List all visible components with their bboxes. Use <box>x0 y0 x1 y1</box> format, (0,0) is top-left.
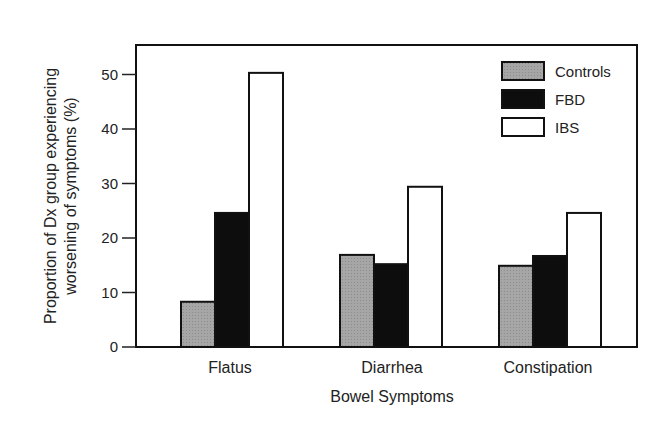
y-axis-title-line: worsening of symptoms (%) <box>62 97 79 295</box>
x-category-label: Constipation <box>504 359 593 376</box>
legend-label-ibs: IBS <box>555 119 579 136</box>
bar-controls-diarrhea <box>340 255 374 347</box>
bar-fbd-flatus <box>215 213 249 347</box>
legend-label-fbd: FBD <box>555 91 585 108</box>
bar-fbd-diarrhea <box>374 264 408 347</box>
y-tick-label: 50 <box>101 66 118 83</box>
x-category-label: Flatus <box>208 359 252 376</box>
x-axis-title: Bowel Symptoms <box>330 388 454 405</box>
bar-ibs-diarrhea <box>408 187 442 347</box>
bar-controls-constipation <box>499 266 533 347</box>
y-axis-title-line: Proportion of Dx group experiencing <box>42 68 59 324</box>
y-tick-label: 10 <box>101 284 118 301</box>
bars <box>181 73 601 347</box>
y-tick-label: 0 <box>110 338 118 355</box>
y-tick-label: 40 <box>101 120 118 137</box>
legend-swatch-ibs <box>502 118 544 136</box>
legend: ControlsFBDIBS <box>502 62 611 136</box>
y-tick-label: 30 <box>101 175 118 192</box>
bar-ibs-flatus <box>249 73 283 347</box>
bar-controls-flatus <box>181 302 215 347</box>
legend-swatch-controls <box>502 62 544 80</box>
y-axis-title: Proportion of Dx group experiencingworse… <box>42 68 79 324</box>
bar-ibs-constipation <box>567 213 601 347</box>
legend-label-controls: Controls <box>555 63 611 80</box>
y-tick-label: 20 <box>101 229 118 246</box>
y-axis-ticks: 01020304050 <box>101 66 136 356</box>
legend-swatch-fbd <box>502 90 544 108</box>
bar-fbd-constipation <box>533 256 567 347</box>
x-category-label: Diarrhea <box>361 359 422 376</box>
x-axis-category-labels: FlatusDiarrheaConstipation <box>208 359 592 376</box>
bar-chart: Proportion of Dx group experiencingworse… <box>0 0 671 423</box>
